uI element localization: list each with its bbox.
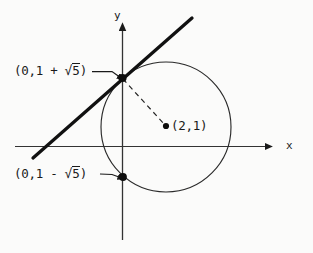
leader-arrow-lower bbox=[100, 174, 119, 177]
radius-dashed-segment bbox=[123, 79, 165, 125]
diagram-canvas: (0,1 + √5) (0,1 - √5) (2,1) x y bbox=[0, 0, 313, 253]
label-upper-close: ) bbox=[80, 63, 87, 78]
x-axis-label: x bbox=[286, 139, 293, 152]
label-center-point: (2,1) bbox=[171, 118, 207, 133]
point-upper-intersection bbox=[118, 74, 126, 82]
line-shape bbox=[33, 18, 192, 158]
label-lower-sqrt-group: √5 bbox=[65, 166, 80, 181]
label-upper-open: (0,1 + bbox=[14, 63, 65, 78]
y-axis-label: y bbox=[114, 9, 121, 22]
label-upper-intersection: (0,1 + √5) bbox=[14, 63, 87, 78]
label-lower-radicand: 5 bbox=[72, 166, 80, 180]
point-lower-intersection bbox=[119, 173, 127, 181]
label-upper-radicand: 5 bbox=[72, 63, 80, 77]
label-lower-close: ) bbox=[80, 166, 87, 181]
label-lower-open: (0,1 - bbox=[14, 166, 65, 181]
diagram-svg bbox=[0, 0, 313, 253]
label-lower-intersection: (0,1 - √5) bbox=[14, 166, 87, 181]
leader-arrow-upper bbox=[92, 72, 119, 77]
label-upper-sqrt-group: √5 bbox=[65, 63, 80, 78]
point-center bbox=[163, 123, 169, 129]
